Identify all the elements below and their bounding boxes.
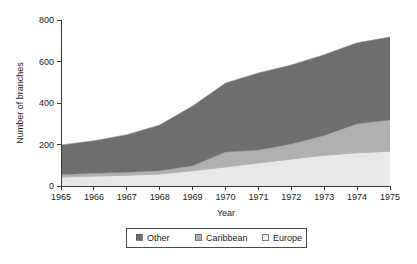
x-tick-label: 1971: [248, 192, 268, 202]
x-tick-label: 1974: [347, 192, 367, 202]
x-tick-label: 1966: [84, 192, 104, 202]
x-tick-labels: 1965196619671968196919701971197219731974…: [51, 192, 400, 202]
stacked-area-chart: 0200400600800 19651966196719681969197019…: [0, 0, 417, 264]
y-axis-title: Number of branches: [15, 62, 25, 144]
y-tick-label: 800: [39, 15, 54, 25]
legend-swatch-other-icon: [136, 234, 142, 240]
legend-label-caribbean: Caribbean: [206, 233, 248, 243]
x-tick-label: 1973: [314, 192, 334, 202]
legend-swatch-caribbean-icon: [195, 234, 201, 240]
y-tick-label: 0: [49, 181, 54, 191]
x-tick-label: 1968: [150, 192, 170, 202]
y-tick-label: 600: [39, 57, 54, 67]
x-tick-label: 1970: [215, 192, 235, 202]
legend-swatch-europe-icon: [262, 234, 268, 240]
legend-label-europe: Europe: [273, 233, 302, 243]
y-tick-label: 200: [39, 140, 54, 150]
x-axis-title: Year: [217, 208, 235, 218]
legend-label-other: Other: [147, 233, 170, 243]
x-tick-label: 1975: [380, 192, 400, 202]
x-tick-label: 1972: [281, 192, 301, 202]
x-tick-label: 1967: [117, 192, 137, 202]
x-tick-label: 1965: [51, 192, 71, 202]
y-tick-label: 400: [39, 98, 54, 108]
x-tick-label: 1969: [183, 192, 203, 202]
chart-canvas: 0200400600800 19651966196719681969197019…: [0, 0, 417, 264]
